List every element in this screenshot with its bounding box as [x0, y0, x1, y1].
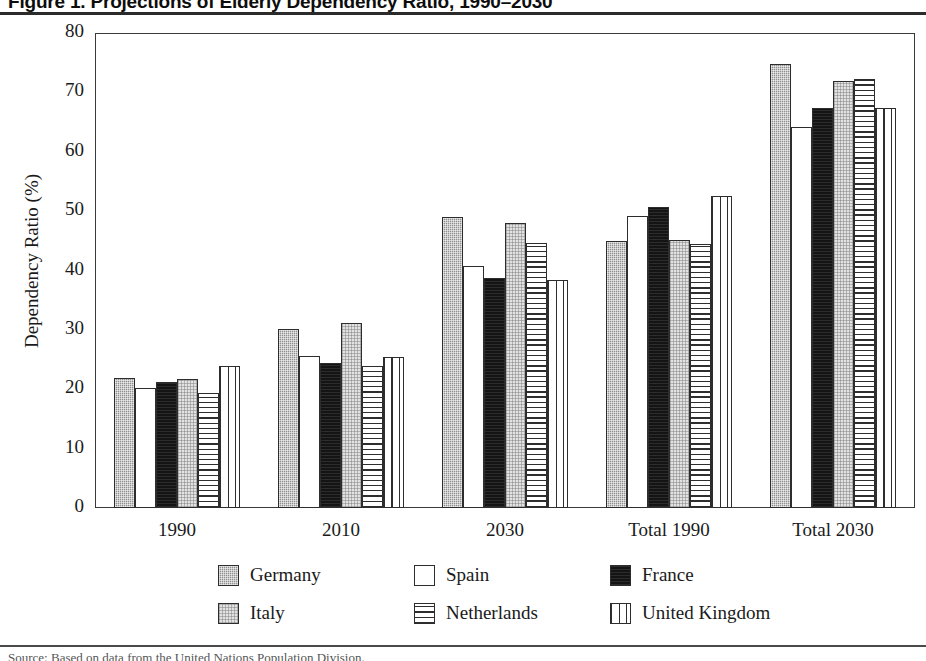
legend-item-germany[interactable]: Germany	[218, 564, 414, 586]
legend-swatch-icon	[218, 603, 239, 624]
legend-swatch-icon	[218, 565, 239, 586]
y-tick-label: 40	[36, 258, 84, 280]
legend-label: United Kingdom	[642, 602, 770, 624]
y-tick-label: 70	[36, 79, 84, 101]
legend-label: Netherlands	[446, 602, 538, 624]
legend-item-france[interactable]: France	[610, 564, 840, 586]
legend-item-italy[interactable]: Italy	[218, 602, 414, 624]
x-tick-label: Total 1990	[587, 519, 751, 541]
y-tick-label: 80	[36, 20, 84, 42]
chart-legend: GermanySpainFranceItalyNetherlandsUnited…	[218, 556, 818, 632]
y-tick-label: 10	[36, 436, 84, 458]
legend-swatch-icon	[414, 565, 435, 586]
legend-swatch-icon	[414, 603, 435, 624]
x-tick-label: Total 2030	[751, 519, 915, 541]
legend-label: Germany	[250, 564, 321, 586]
footer-divider-rule	[0, 645, 926, 647]
y-tick-label: 60	[36, 139, 84, 161]
x-tick-label: 2010	[259, 519, 423, 541]
legend-item-netherlands[interactable]: Netherlands	[414, 602, 610, 624]
y-tick-label: 20	[36, 376, 84, 398]
source-note: Source: Based on data from the United Na…	[8, 650, 908, 661]
legend-item-united-kingdom[interactable]: United Kingdom	[610, 602, 840, 624]
legend-label: Italy	[250, 602, 285, 624]
y-tick-label: 30	[36, 317, 84, 339]
bar-chart: Dependency Ratio (%) 01020304050607080 1…	[0, 0, 926, 661]
y-tick-label: 50	[36, 198, 84, 220]
x-tick-label: 2030	[423, 519, 587, 541]
legend-swatch-icon	[610, 565, 631, 586]
y-tick-label: 0	[36, 495, 84, 517]
plot-area-frame	[95, 33, 915, 508]
legend-label: France	[642, 564, 694, 586]
legend-swatch-icon	[610, 603, 631, 624]
legend-label: Spain	[446, 564, 489, 586]
legend-item-spain[interactable]: Spain	[414, 564, 610, 586]
x-tick-label: 1990	[95, 519, 259, 541]
